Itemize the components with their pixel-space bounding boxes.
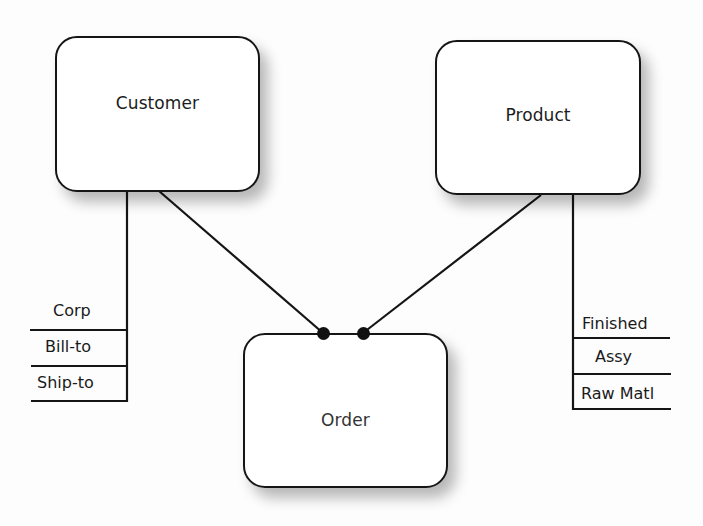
customer-level-bill-to: Bill-to: [45, 337, 91, 356]
entity-customer[interactable]: Customer: [55, 36, 260, 192]
entity-label: Order: [245, 410, 446, 430]
product-order-relationship-line: [363, 195, 541, 333]
customer-level-ship-to: Ship-to: [37, 373, 94, 392]
entity-product[interactable]: Product: [435, 40, 641, 195]
product-level-assy: Assy: [595, 347, 632, 366]
customer-order-many-dot-icon: [317, 327, 330, 340]
customer-order-relationship-line: [159, 191, 323, 333]
diagram-canvas: Customer Product Order Corp Bill-to Ship…: [0, 0, 703, 526]
entity-label: Customer: [57, 93, 258, 113]
product-order-many-dot-icon: [357, 327, 370, 340]
entity-order[interactable]: Order: [243, 333, 448, 488]
product-level-finished: Finished: [582, 314, 648, 333]
customer-level-corp: Corp: [53, 301, 91, 320]
product-level-raw-matl: Raw Matl: [581, 384, 654, 403]
entity-label: Product: [437, 105, 639, 125]
